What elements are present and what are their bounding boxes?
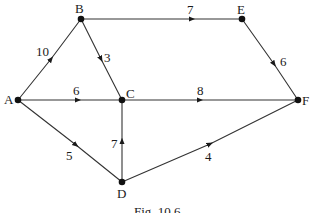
- node-F: [295, 97, 302, 104]
- weight-B-C: 3: [104, 51, 111, 64]
- edge-A-D: [18, 100, 122, 182]
- weight-E-F: 6: [280, 55, 287, 68]
- graph-canvas: [0, 0, 312, 213]
- node-label-A: A: [4, 93, 13, 106]
- node-D: [119, 179, 126, 186]
- edge-D-F: [122, 100, 298, 182]
- node-label-E: E: [237, 3, 245, 16]
- node-label-C: C: [126, 87, 135, 100]
- weight-B-E: 7: [187, 3, 194, 16]
- weight-C-F: 8: [197, 84, 204, 97]
- node-C: [119, 97, 126, 104]
- weight-D-C: 7: [111, 137, 118, 150]
- node-label-B: B: [75, 2, 84, 15]
- edge-E-F: [242, 19, 298, 100]
- edge-B-C: [81, 19, 122, 100]
- figure-caption: Fig. 10.6: [134, 205, 181, 213]
- node-A: [15, 97, 22, 104]
- weight-D-F: 4: [205, 150, 212, 163]
- weight-A-B: 10: [36, 45, 49, 58]
- edge-A-B: [18, 19, 81, 100]
- weight-A-C: 6: [73, 84, 80, 97]
- node-B: [78, 16, 85, 23]
- weight-A-D: 5: [66, 149, 73, 162]
- node-label-F: F: [302, 94, 309, 107]
- node-label-D: D: [117, 187, 126, 200]
